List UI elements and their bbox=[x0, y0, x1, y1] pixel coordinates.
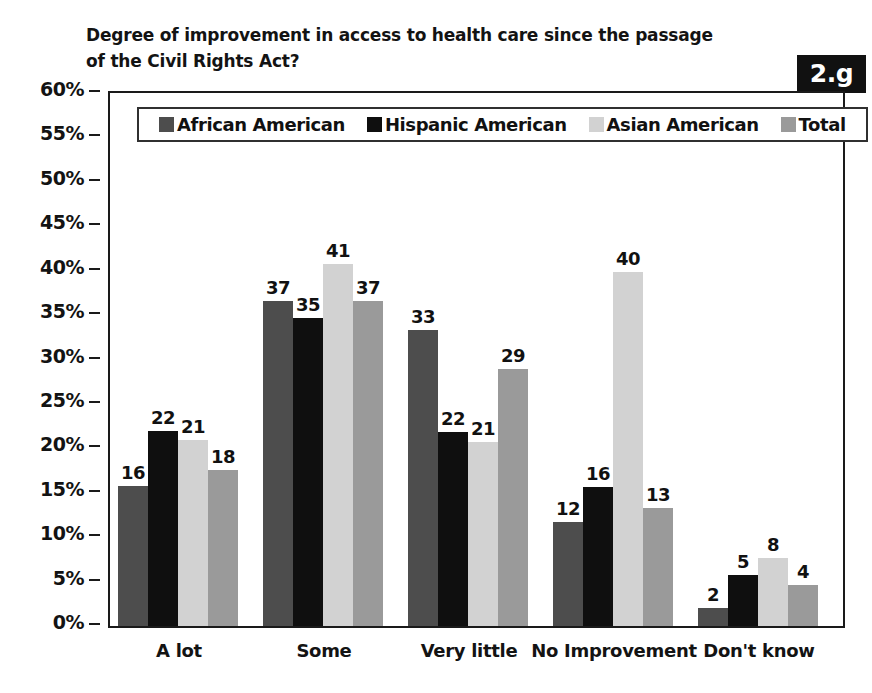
bar[interactable]: 21 bbox=[178, 440, 208, 626]
y-axis-tick-label: 45% bbox=[40, 211, 84, 233]
y-axis-tick-mark bbox=[89, 357, 100, 359]
bar-value-label: 37 bbox=[344, 277, 392, 298]
bar-rect bbox=[613, 272, 643, 626]
bar-rect bbox=[118, 486, 148, 626]
bar[interactable]: 18 bbox=[208, 470, 238, 626]
bar[interactable]: 22 bbox=[148, 431, 178, 626]
bar[interactable]: 37 bbox=[263, 301, 293, 626]
bar[interactable]: 16 bbox=[118, 486, 148, 626]
y-axis-tick-mark bbox=[89, 490, 100, 492]
y-axis-tick-mark bbox=[89, 579, 100, 581]
bar-value-label: 29 bbox=[489, 345, 537, 366]
y-axis-tick-label: 15% bbox=[40, 478, 84, 500]
bar[interactable]: 29 bbox=[498, 369, 528, 626]
y-axis-tick-label: 25% bbox=[40, 389, 84, 411]
y-axis-tick-mark bbox=[89, 179, 100, 181]
bar-rect bbox=[643, 508, 673, 626]
bar-value-label: 8 bbox=[749, 534, 797, 555]
y-axis-tick-label: 30% bbox=[40, 345, 84, 367]
bar-value-label: 21 bbox=[169, 416, 217, 437]
y-axis-tick-mark bbox=[89, 623, 100, 625]
bar-rect bbox=[438, 432, 468, 626]
y-axis-tick-mark bbox=[89, 312, 100, 314]
bar-rect bbox=[553, 522, 583, 626]
y-axis-tick-mark bbox=[89, 90, 100, 92]
figure-container: Degree of improvement in access to healt… bbox=[0, 0, 872, 693]
bar-value-label: 33 bbox=[399, 306, 447, 327]
figure-number-badge: 2.g bbox=[797, 55, 866, 93]
bar-value-label: 41 bbox=[314, 240, 362, 261]
y-axis: 60%55%50%45%40%35%30%25%20%15%10%5%0% bbox=[0, 91, 100, 628]
bar-rect bbox=[408, 330, 438, 626]
bar-group: 16222118 bbox=[118, 93, 240, 626]
y-axis-tick-mark bbox=[89, 401, 100, 403]
bar-rect bbox=[498, 369, 528, 626]
y-axis-tick-mark bbox=[89, 534, 100, 536]
bar-rect bbox=[353, 301, 383, 626]
bar[interactable]: 22 bbox=[438, 432, 468, 626]
bar[interactable]: 4 bbox=[788, 585, 818, 626]
bar-value-label: 18 bbox=[199, 446, 247, 467]
bar-rect bbox=[728, 575, 758, 626]
x-axis: A lotSomeVery littleNo ImprovementDon't … bbox=[110, 640, 843, 680]
bar[interactable]: 35 bbox=[293, 318, 323, 626]
bar[interactable]: 40 bbox=[613, 272, 643, 626]
bar-rect bbox=[468, 442, 498, 626]
bar-rect bbox=[698, 608, 728, 626]
chart-title: Degree of improvement in access to healt… bbox=[86, 22, 786, 74]
bar[interactable]: 21 bbox=[468, 442, 498, 626]
bar[interactable]: 33 bbox=[408, 330, 438, 626]
bar-group: 37354137 bbox=[263, 93, 385, 626]
y-axis-tick-label: 20% bbox=[40, 433, 84, 455]
bar-group: 12164013 bbox=[553, 93, 675, 626]
bars-layer: 162221183735413733222129121640132584 bbox=[110, 93, 843, 626]
bar-group: 2584 bbox=[698, 93, 820, 626]
bar-rect bbox=[263, 301, 293, 626]
y-axis-tick-label: 5% bbox=[53, 567, 84, 589]
bar-value-label: 13 bbox=[634, 484, 682, 505]
bar-value-label: 40 bbox=[604, 248, 652, 269]
bar-value-label: 4 bbox=[779, 561, 827, 582]
y-axis-tick-mark bbox=[89, 223, 100, 225]
bar-rect bbox=[178, 440, 208, 626]
y-axis-tick-mark bbox=[89, 134, 100, 136]
bar[interactable]: 2 bbox=[698, 608, 728, 626]
y-axis-tick-mark bbox=[89, 445, 100, 447]
bar-rect bbox=[583, 487, 613, 626]
bar-rect bbox=[323, 264, 353, 626]
bar[interactable]: 12 bbox=[553, 522, 583, 626]
y-axis-tick-label: 0% bbox=[53, 611, 84, 633]
x-axis-label: Don't know bbox=[668, 640, 850, 661]
bar[interactable]: 41 bbox=[323, 264, 353, 626]
bar[interactable]: 37 bbox=[353, 301, 383, 626]
bar-group: 33222129 bbox=[408, 93, 530, 626]
bar[interactable]: 16 bbox=[583, 487, 613, 626]
bar-rect bbox=[148, 431, 178, 626]
y-axis-tick-mark bbox=[89, 268, 100, 270]
y-axis-tick-label: 50% bbox=[40, 167, 84, 189]
bar[interactable]: 13 bbox=[643, 508, 673, 626]
bar-rect bbox=[788, 585, 818, 626]
y-axis-tick-label: 55% bbox=[40, 122, 84, 144]
y-axis-tick-label: 40% bbox=[40, 256, 84, 278]
y-axis-tick-label: 35% bbox=[40, 300, 84, 322]
y-axis-tick-label: 10% bbox=[40, 522, 84, 544]
bar-rect bbox=[208, 470, 238, 626]
bar-rect bbox=[293, 318, 323, 626]
y-axis-tick-label: 60% bbox=[40, 78, 84, 100]
bar[interactable]: 5 bbox=[728, 575, 758, 626]
